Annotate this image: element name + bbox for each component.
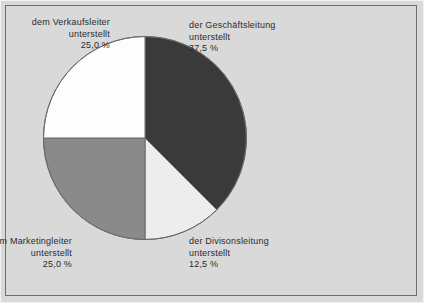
pie-chart-figure: der Geschäftsleitung unterstellt 37,5 % … — [0, 0, 424, 303]
slice-label-subline: unterstellt — [0, 248, 72, 260]
slice-label-subline: unterstellt — [189, 32, 276, 44]
pie-slice-label-verkaufsleiter: dem Verkaufsleiter unterstellt 25,0 % — [32, 17, 110, 52]
slice-label-subline: unterstellt — [32, 29, 110, 41]
pie-graphic — [43, 36, 247, 240]
slice-label-name: dem Marketingleiter — [0, 236, 72, 248]
slice-label-value: 37,5 % — [189, 43, 276, 55]
slice-label-value: 12,5 % — [189, 259, 269, 271]
pie-slice — [44, 37, 146, 139]
slice-label-name: dem Verkaufsleiter — [32, 17, 110, 29]
pie-svg — [43, 36, 247, 240]
pie-slice-label-marketingleiter: dem Marketingleiter unterstellt 25,0 % — [0, 236, 72, 271]
slice-label-name: der Geschäftsleitung — [189, 20, 276, 32]
pie-slice-label-geschaeftsleitung: der Geschäftsleitung unterstellt 37,5 % — [189, 20, 276, 55]
pie-slice — [44, 138, 146, 240]
pie-slice-label-divisonsleitung: der Divisonsleitung unterstellt 12,5 % — [189, 236, 269, 271]
slice-label-value: 25,0 % — [32, 40, 110, 52]
slice-label-name: der Divisonsleitung — [189, 236, 269, 248]
slice-label-value: 25,0 % — [0, 259, 72, 271]
slice-label-subline: unterstellt — [189, 248, 269, 260]
